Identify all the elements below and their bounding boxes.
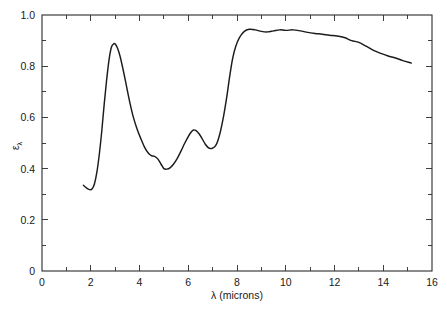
data-curve-layer bbox=[83, 29, 411, 190]
x-tick-label: 4 bbox=[137, 276, 143, 288]
x-tick-label: 14 bbox=[377, 276, 389, 288]
x-tick-label: 0 bbox=[39, 276, 45, 288]
figure-container: 024681012141600.20.40.60.81.0 λ (microns… bbox=[0, 0, 447, 309]
x-tick-label: 6 bbox=[185, 276, 191, 288]
y-tick-label: 0 bbox=[29, 265, 35, 277]
x-axis-title: λ (microns) bbox=[211, 289, 263, 301]
emissivity-chart: 024681012141600.20.40.60.81.0 λ (microns… bbox=[0, 0, 447, 309]
x-tick-label: 12 bbox=[329, 276, 341, 288]
y-tick-label: 0.6 bbox=[20, 111, 35, 123]
svg-text:λ (microns): λ (microns) bbox=[211, 289, 263, 301]
y-tick-label: 1.0 bbox=[20, 9, 35, 21]
y-tick-label: 0.2 bbox=[20, 214, 35, 226]
data-curve bbox=[83, 29, 411, 190]
y-axis-title: ελ bbox=[9, 141, 23, 150]
x-tick-label: 2 bbox=[88, 276, 94, 288]
y-tick-label: 0.8 bbox=[20, 60, 35, 72]
y-tick-label: 0.4 bbox=[20, 163, 35, 175]
x-tick-label: 16 bbox=[426, 276, 438, 288]
svg-text:ελ: ελ bbox=[9, 141, 23, 150]
x-tick-label: 8 bbox=[234, 276, 240, 288]
x-tick-label: 10 bbox=[280, 276, 292, 288]
